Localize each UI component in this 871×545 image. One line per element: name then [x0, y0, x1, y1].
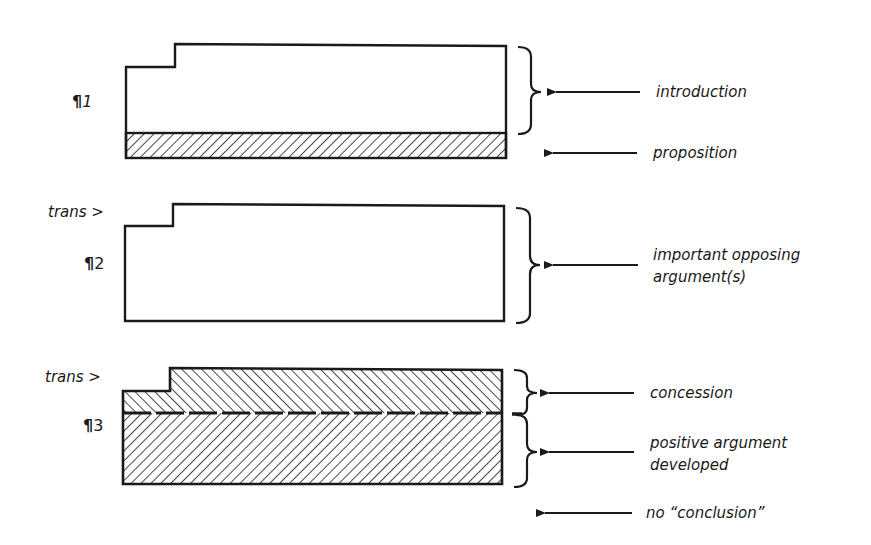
paragraph-3-block	[123, 368, 502, 484]
paragraph-1-block	[126, 44, 506, 158]
paragraph-2-transition-label: trans >	[48, 203, 104, 221]
positive-argument-brace-icon	[514, 415, 537, 487]
concession-brace-icon	[514, 370, 537, 415]
paragraph-2-block	[125, 204, 504, 321]
opposing-argument-label-line-1: important opposing	[653, 245, 800, 265]
paragraph-3-mark: ¶3	[83, 416, 103, 435]
paragraph-2-mark: ¶2	[84, 254, 104, 273]
proposition-label: proposition	[653, 143, 737, 163]
proposition-section	[126, 133, 506, 158]
positive-argument-section	[123, 413, 502, 484]
positive-argument-label-line-2: developed	[650, 455, 728, 475]
paragraph-3-transition-label: trans >	[45, 368, 101, 386]
introduction-brace-icon	[518, 47, 541, 134]
introduction-label: introduction	[656, 82, 747, 102]
pilcrow-icon: ¶	[72, 92, 82, 111]
opposing-brace-icon	[516, 208, 540, 323]
opposing-argument-section	[125, 204, 504, 321]
pilcrow-icon: ¶	[83, 416, 93, 435]
positive-argument-label-line-1: positive argument	[650, 433, 787, 453]
concession-section	[123, 368, 502, 413]
paragraph-1-mark: ¶1	[72, 92, 92, 111]
no-conclusion-label: no “conclusion”	[646, 503, 765, 523]
concession-label: concession	[650, 383, 733, 403]
opposing-argument-label-line-2: argument(s)	[653, 267, 746, 287]
pilcrow-icon: ¶	[84, 254, 94, 273]
